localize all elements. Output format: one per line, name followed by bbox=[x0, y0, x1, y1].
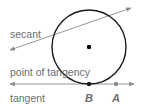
point-a-icon bbox=[114, 82, 118, 86]
point-b-label: B bbox=[85, 92, 93, 104]
center-point-icon bbox=[87, 45, 91, 49]
circle-diagram: secant point of tangency tangent B A bbox=[0, 0, 141, 110]
secant-label: secant bbox=[10, 28, 41, 40]
point-of-tangency-label: point of tangency bbox=[10, 66, 91, 78]
point-b-icon bbox=[87, 82, 91, 86]
tangent-label: tangent bbox=[10, 92, 45, 104]
point-a-label: A bbox=[111, 92, 120, 104]
